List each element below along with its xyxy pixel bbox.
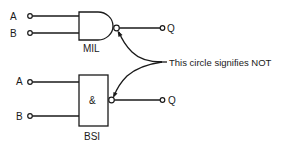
bsi-not-bubble <box>109 97 115 103</box>
bsi-and-symbol: & <box>89 95 96 106</box>
mil-gate-label: MIL <box>83 43 100 54</box>
bsi-input-b-label: B <box>16 111 23 122</box>
bsi-gate-label: BSI <box>84 131 100 142</box>
bsi-output-terminal <box>160 98 165 103</box>
mil-input-b-terminal <box>28 31 33 36</box>
arrow-to-bsi-bubble <box>114 62 162 96</box>
mil-output-terminal <box>160 26 165 31</box>
arrowhead-mil <box>118 31 123 38</box>
mil-and-body <box>79 12 113 40</box>
mil-input-b-label: B <box>10 28 17 39</box>
bsi-input-a-label: A <box>16 76 23 87</box>
arrow-to-mil-bubble <box>119 32 162 62</box>
bsi-input-b-terminal <box>28 114 33 119</box>
mil-input-a-label: A <box>10 11 17 22</box>
annotation-arrows: This circle signifies NOT <box>113 31 272 99</box>
mil-output-label: Q <box>167 23 175 34</box>
annotation-text: This circle signifies NOT <box>169 57 272 68</box>
nand-gate-diagram: A B Q MIL This circle signifies NOT A B … <box>0 0 291 145</box>
bsi-gate: A B & Q BSI <box>16 75 176 142</box>
mil-gate: A B Q MIL <box>10 11 175 54</box>
mil-input-a-terminal <box>28 14 33 19</box>
mil-not-bubble <box>114 25 120 31</box>
bsi-input-a-terminal <box>28 80 33 85</box>
bsi-output-label: Q <box>168 95 176 106</box>
arrowhead-bsi <box>113 92 118 98</box>
